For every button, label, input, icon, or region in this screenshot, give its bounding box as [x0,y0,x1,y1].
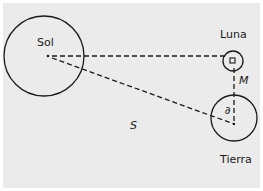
diagram-canvas: Sol Luna M ∂ Tierra S [0,0,263,191]
sun-distance-label: S [130,119,137,132]
sun-center-dot [47,55,50,58]
earth-center-dot [233,123,235,125]
moon-distance-label: M [239,74,249,87]
moon-label: Luna [220,28,247,41]
angle-label: ∂ [225,104,231,117]
earth-label: Tierra [219,153,252,166]
sun-earth-moon-diagram: Sol Luna M ∂ Tierra S [0,0,263,191]
sun-label: Sol [37,36,54,49]
